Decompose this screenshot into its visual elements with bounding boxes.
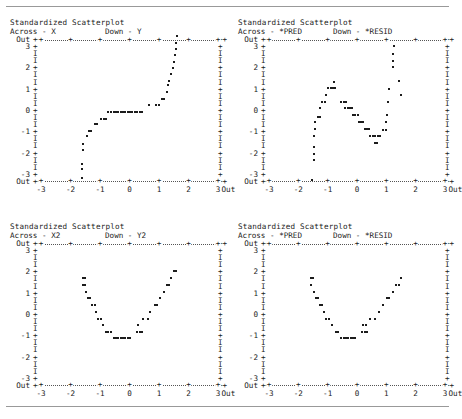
plot-area: Out+++++++++++3++IIII2++IIII1++IIII0++II… — [10, 36, 228, 185]
x-axis-tick: + — [186, 240, 192, 248]
x-axis-tick: + — [384, 36, 390, 44]
axis-row: 1++ — [238, 86, 455, 93]
x-axis-tick: + — [127, 240, 133, 248]
x-axis-label: -3 — [264, 185, 273, 194]
plot-horizontal-border: +++++++ — [41, 240, 218, 247]
axis-row: 0++ — [238, 311, 455, 318]
down-variable-label: Down - Y — [105, 27, 142, 36]
y-axis-label: Out — [10, 178, 33, 185]
axis-row: II — [10, 361, 228, 368]
x-axis-label: 1 — [157, 185, 162, 194]
axis-row: 2++ — [10, 268, 228, 275]
x-axis-tick: + — [68, 36, 74, 44]
x-axis-tick: + — [156, 36, 162, 44]
down-variable-label: Down - Y2 — [105, 231, 146, 240]
x-axis-tick: + — [38, 240, 44, 248]
plot-horizontal-border: +++++++ — [41, 178, 218, 185]
y-axis-label: -2 — [10, 150, 33, 157]
y-axis-label: -1 — [238, 128, 261, 135]
plot-area: Out+++++++++++3++IIII2++IIII1++IIII0++II… — [238, 240, 455, 389]
plot-area: Out+++++++++++3++IIII2++IIII1++IIII0++II… — [10, 240, 228, 389]
x-axis-label: -2 — [66, 389, 75, 398]
y-axis-label: 1 — [10, 290, 33, 297]
y-axis-label: -1 — [10, 332, 33, 339]
axis-row: II — [238, 304, 455, 311]
axis-row: 3++ — [10, 247, 228, 254]
x-axis-label: -3 — [36, 389, 45, 398]
axis-row: Out+++++++++++ — [10, 240, 228, 247]
x-axis-tick: + — [384, 240, 390, 248]
y-axis-label: -2 — [238, 354, 261, 361]
axis-row: II — [238, 100, 455, 107]
plot-horizontal-border: +++++++ — [41, 382, 218, 389]
x-axis-label: 2 — [186, 185, 191, 194]
axis-row: -2++ — [238, 354, 455, 361]
y-axis-label: 3 — [238, 247, 261, 254]
axis-row: 2++ — [238, 268, 455, 275]
x-axis-label: -1 — [95, 185, 104, 194]
axis-row: 0++ — [10, 107, 228, 114]
axis-row: II — [238, 346, 455, 353]
down-variable-label: Down - *RESID — [333, 27, 392, 36]
axis-row: II — [238, 157, 455, 164]
y-axis-label: 0 — [10, 311, 33, 318]
x-axis-label: -1 — [323, 185, 332, 194]
x-axis-tick: + — [413, 240, 419, 248]
plot-horizontal-border: +++++++ — [269, 240, 445, 247]
axis-row: 3++ — [10, 43, 228, 50]
x-axis-label: 1 — [157, 389, 162, 398]
panel-title: Standardized Scatterplot — [10, 222, 228, 231]
axis-row: II — [10, 318, 228, 325]
axis-row: II — [10, 339, 228, 346]
x-axis-label: -3 — [264, 389, 273, 398]
x-axis-tick: + — [442, 240, 448, 248]
page-top-rule — [6, 6, 449, 7]
x-axis-tick: + — [156, 240, 162, 248]
axis-row: II — [238, 79, 455, 86]
axis-row: II — [238, 93, 455, 100]
axis-row: II — [10, 93, 228, 100]
axis-row: II — [238, 368, 455, 375]
axis-row: Out+++++++++++ — [10, 178, 228, 185]
axis-row: Out+++++++++++ — [238, 240, 455, 247]
x-axis-label-row: -3-2-10123Out — [41, 185, 218, 195]
x-axis-tick: + — [354, 240, 360, 248]
axis-row: II — [10, 368, 228, 375]
axis-row: II — [238, 318, 455, 325]
axis-row: 3++ — [238, 43, 455, 50]
axis-row: II — [10, 304, 228, 311]
x-axis-out-label: Out — [449, 389, 462, 398]
axis-row: II — [238, 261, 455, 268]
scatterplot-panel-2: Standardized ScatterplotAcross - *PREDDo… — [228, 14, 455, 218]
plot-horizontal-border: +++++++ — [269, 36, 445, 43]
x-axis-tick: + — [215, 36, 221, 44]
axis-row: -2++ — [10, 354, 228, 361]
axis-row: II — [10, 275, 228, 282]
axis-row: II — [10, 346, 228, 353]
x-axis-label-row: -3-2-10123Out — [41, 389, 218, 399]
x-axis-tick: + — [186, 36, 192, 44]
x-axis-out-label: Out — [449, 185, 462, 194]
axis-row: II — [238, 71, 455, 78]
x-axis-label: 0 — [127, 185, 132, 194]
axis-row: II — [10, 71, 228, 78]
axis-row: II — [238, 50, 455, 57]
y-axis-label: 3 — [238, 43, 261, 50]
x-axis-tick: + — [215, 240, 221, 248]
x-axis-label: -2 — [294, 389, 303, 398]
axis-row: II — [10, 114, 228, 121]
axis-row: Out+++++++++++ — [10, 382, 228, 389]
axis-row: -1++ — [238, 332, 455, 339]
y-axis-label: 2 — [238, 64, 261, 71]
panel-title: Standardized Scatterplot — [238, 18, 455, 27]
panel-title: Standardized Scatterplot — [10, 18, 228, 27]
y-axis-label: 3 — [10, 247, 33, 254]
x-axis-label: 0 — [127, 389, 132, 398]
axis-row: II — [10, 121, 228, 128]
scatterplot-panel-3: Standardized ScatterplotAcross - X2Down … — [0, 218, 228, 419]
plot-horizontal-border: +++++++ — [41, 36, 218, 43]
x-axis-label: 3 — [443, 389, 448, 398]
x-axis-tick: + — [296, 240, 302, 248]
scatterplot-grid: Standardized ScatterplotAcross - XDown -… — [0, 14, 455, 403]
axis-row: II — [238, 142, 455, 149]
